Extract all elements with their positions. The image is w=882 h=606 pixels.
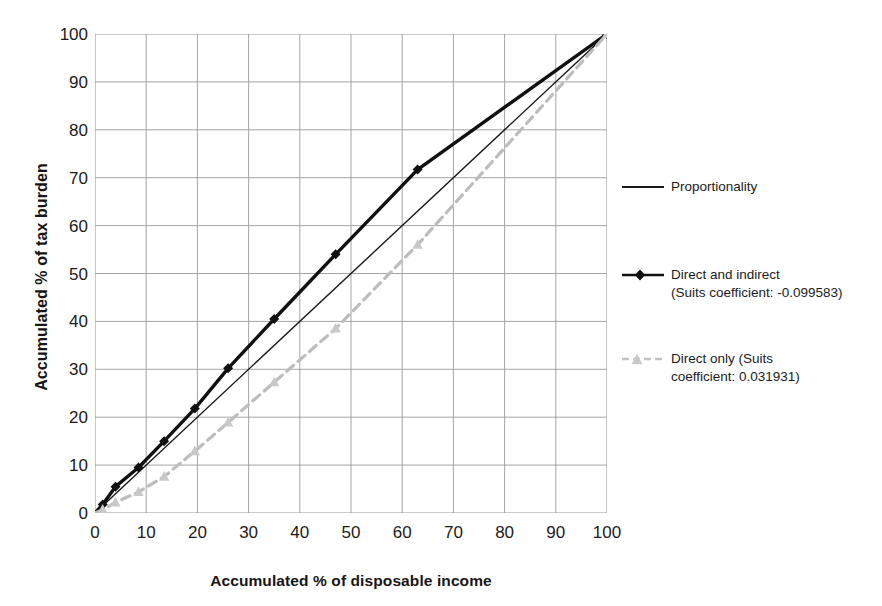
x-tick-label: 70 [425, 524, 481, 541]
legend-label-proportionality: Proportionality [671, 178, 757, 196]
y-tick-label: 30 [42, 361, 88, 378]
x-axis-title: Accumulated % of disposable income [95, 572, 607, 590]
y-tick-label: 20 [42, 409, 88, 426]
legend-line-icon-direct-and-indirect [622, 266, 664, 284]
y-axis-tick-labels: 0102030405060708090100 [0, 0, 88, 606]
x-tick-label: 40 [272, 524, 328, 541]
x-tick-label: 100 [579, 524, 635, 541]
data-point-marker-triangle [110, 497, 120, 507]
y-tick-label: 50 [42, 265, 88, 282]
x-tick-label: 20 [169, 524, 225, 541]
y-tick-label: 40 [42, 313, 88, 330]
legend-label-direct-and-indirect: Direct and indirect (Suits coefficient: … [671, 266, 843, 301]
y-tick-label: 80 [42, 121, 88, 138]
y-tick-label: 10 [42, 457, 88, 474]
y-tick-label: 70 [42, 169, 88, 186]
legend-label-direct-only: Direct only (Suits coefficient: 0.031931… [671, 350, 800, 385]
x-tick-label: 60 [374, 524, 430, 541]
plot-area [95, 34, 607, 513]
x-tick-label: 10 [118, 524, 174, 541]
legend-item-direct-and-indirect[interactable]: Direct and indirect (Suits coefficient: … [622, 266, 843, 301]
y-tick-label: 100 [42, 26, 88, 43]
legend-line-icon-direct-only [622, 350, 664, 368]
legend-item-direct-only[interactable]: Direct only (Suits coefficient: 0.031931… [622, 350, 800, 385]
y-tick-label: 0 [42, 505, 88, 522]
plot-svg [95, 34, 607, 513]
x-tick-label: 0 [67, 524, 123, 541]
x-tick-label: 30 [221, 524, 277, 541]
y-tick-label: 60 [42, 217, 88, 234]
x-tick-label: 50 [323, 524, 379, 541]
y-tick-label: 90 [42, 73, 88, 90]
x-tick-label: 80 [477, 524, 533, 541]
lorenz-curve-chart: Accumulated % of tax burden 010203040506… [0, 0, 882, 606]
x-tick-label: 90 [528, 524, 584, 541]
legend-line-icon-proportionality [622, 178, 664, 196]
legend-item-proportionality[interactable]: Proportionality [622, 178, 757, 196]
